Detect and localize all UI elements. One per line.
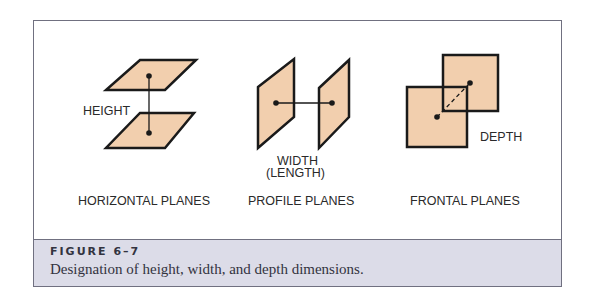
height-endpoint-top — [146, 73, 152, 79]
depth-endpoint-front — [434, 114, 440, 120]
figure-caption-text: Designation of height, width, and depth … — [50, 261, 364, 278]
profile-planes-title: PROFILE PLANES — [248, 194, 354, 208]
frontal-planes-diagram: DEPTH FRONTAL PLANES — [407, 55, 522, 208]
depth-endpoint-back — [467, 80, 473, 86]
horizontal-planes-title: HORIZONTAL PLANES — [78, 194, 210, 208]
height-label: HEIGHT — [83, 104, 131, 118]
profile-planes-diagram: WIDTH (LENGTH) PROFILE PLANES — [248, 59, 354, 208]
figure-number: FIGURE 6–7 — [50, 245, 140, 258]
figure-diagram-area: HEIGHT HORIZONTAL PLANES WIDTH (LENGTH) … — [34, 21, 561, 239]
frontal-planes-title: FRONTAL PLANES — [410, 194, 520, 208]
width-endpoint-right — [329, 100, 335, 106]
figure-caption: FIGURE 6–7 Designation of height, width,… — [34, 239, 561, 286]
horizontal-planes-diagram: HEIGHT HORIZONTAL PLANES — [78, 60, 210, 208]
depth-label: DEPTH — [480, 130, 522, 144]
height-endpoint-bottom — [146, 130, 152, 136]
length-label: (LENGTH) — [266, 166, 325, 180]
figure-frame: HEIGHT HORIZONTAL PLANES WIDTH (LENGTH) … — [33, 20, 562, 287]
width-endpoint-left — [273, 100, 279, 106]
